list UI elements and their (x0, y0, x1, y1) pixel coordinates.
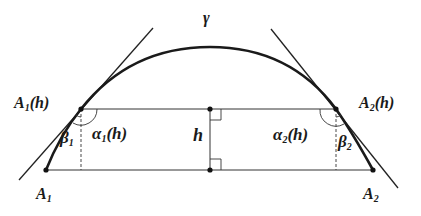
geometry-diagram: γ A1(h) A2(h) A1 A2 α1(h) α2(h) β1 β2 h (0, 0, 421, 216)
point-A1 (43, 167, 48, 172)
label-gamma: γ (203, 9, 210, 27)
point-A2 (370, 167, 375, 172)
point-mid-top (207, 106, 212, 111)
label-A1h: A1(h) (13, 94, 49, 113)
label-h: h (193, 125, 203, 145)
point-A1h (78, 106, 83, 111)
beta1-angle-arc (76, 115, 81, 117)
label-A2h: A2(h) (358, 94, 394, 113)
label-beta1: β1 (59, 128, 74, 148)
alpha1-angle-arc (73, 109, 97, 125)
label-beta2: β2 (337, 132, 352, 152)
label-alpha2: α2(h) (273, 125, 308, 145)
label-alpha1: α1(h) (92, 124, 127, 144)
label-A2: A2 (362, 185, 379, 204)
point-A2h (333, 106, 338, 111)
label-A1: A1 (35, 185, 52, 204)
point-mid-bottom (207, 167, 212, 172)
